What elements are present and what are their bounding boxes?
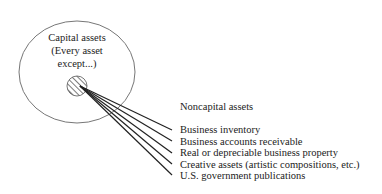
noncapital-heading: Noncapital assets bbox=[180, 101, 253, 113]
noncapital-item: Creative assets (artistic compositions, … bbox=[180, 159, 360, 171]
noncapital-item: Business inventory bbox=[180, 124, 260, 136]
capital-assets-label: Capital assets (Every asset except...) bbox=[27, 31, 127, 70]
capital-assets-line-3: except...) bbox=[27, 57, 127, 70]
capital-assets-line-2: (Every asset bbox=[27, 44, 127, 57]
capital-assets-line-1: Capital assets bbox=[27, 31, 127, 44]
noncapital-item: U.S. government publications bbox=[180, 170, 305, 182]
noncapital-item: Real or depreciable business property bbox=[180, 147, 338, 159]
noncapital-item: Business accounts receivable bbox=[180, 136, 302, 148]
noncapital-hatched-circle bbox=[67, 76, 87, 96]
